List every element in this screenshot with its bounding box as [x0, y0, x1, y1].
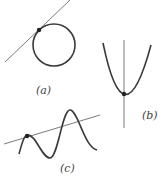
- tangent-point-c: [25, 134, 29, 138]
- label-c: (c): [60, 162, 75, 175]
- panel-c: (c): [4, 110, 100, 175]
- label-a: (a): [36, 84, 51, 97]
- label-b: (b): [142, 109, 158, 122]
- secant-line-c: [4, 115, 100, 144]
- tangent-lines-figure: (a) (b) (c): [0, 0, 165, 176]
- tangent-point-a: [37, 28, 41, 32]
- parabola-curve: [103, 43, 151, 95]
- tangent-point-b: [122, 92, 126, 96]
- panel-a: (a): [5, 0, 75, 97]
- panel-b: (b): [103, 40, 158, 128]
- wave-curve: [19, 110, 97, 158]
